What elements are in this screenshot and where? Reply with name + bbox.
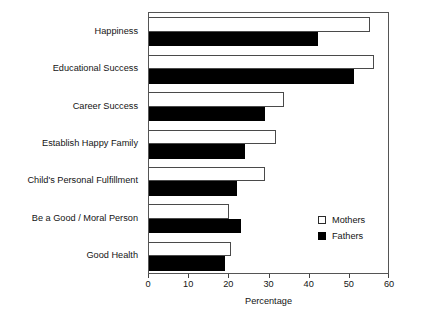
bar-mothers-5 xyxy=(149,167,265,182)
category-label-1: Happiness xyxy=(95,26,138,36)
legend-item-mothers: Mothers xyxy=(318,214,388,225)
bar-mothers-2 xyxy=(149,55,374,70)
bar-fathers-2 xyxy=(149,69,354,84)
filled-square-icon xyxy=(318,232,326,240)
x-axis-title: Percentage xyxy=(148,296,389,307)
x-tick-label-2: 10 xyxy=(183,279,193,289)
x-tick-mark-1 xyxy=(148,274,149,278)
bar-mothers-7 xyxy=(149,242,231,257)
x-tick-label-6: 50 xyxy=(344,279,354,289)
category-label-6: Be a Good / Moral Person xyxy=(32,213,138,223)
bar-fathers-3 xyxy=(149,107,265,122)
x-tick-label-1: 0 xyxy=(145,279,150,289)
open-square-icon xyxy=(318,216,326,224)
bar-mothers-6 xyxy=(149,204,229,219)
category-label-5: Child's Personal Fulfillment xyxy=(27,175,138,185)
category-label-4: Establish Happy Family xyxy=(42,138,138,148)
bar-mothers-3 xyxy=(149,92,284,107)
legend-label-mothers: Mothers xyxy=(332,215,365,225)
x-tick-label-7: 60 xyxy=(384,279,394,289)
bar-mothers-4 xyxy=(149,130,276,145)
chart-legend: MothersFathers xyxy=(318,214,388,246)
bar-fathers-1 xyxy=(149,32,318,47)
bar-mothers-1 xyxy=(149,17,370,32)
bar-fathers-7 xyxy=(149,256,225,271)
category-label-2: Educational Success xyxy=(53,63,138,73)
legend-label-fathers: Fathers xyxy=(332,231,363,241)
x-tick-mark-4 xyxy=(269,274,270,278)
bar-fathers-6 xyxy=(149,219,241,234)
x-tick-mark-2 xyxy=(188,274,189,278)
x-tick-mark-3 xyxy=(228,274,229,278)
x-tick-mark-6 xyxy=(349,274,350,278)
bar-chart: HappinessEducational SuccessCareer Succe… xyxy=(0,0,427,323)
bar-fathers-5 xyxy=(149,181,237,196)
category-label-3: Career Success xyxy=(73,101,138,111)
x-tick-label-4: 30 xyxy=(263,279,273,289)
category-label-7: Good Health xyxy=(86,250,138,260)
x-tick-mark-5 xyxy=(309,274,310,278)
legend-item-fathers: Fathers xyxy=(318,230,388,241)
x-tick-label-5: 40 xyxy=(304,279,314,289)
x-tick-mark-7 xyxy=(388,274,389,278)
bar-fathers-4 xyxy=(149,144,245,159)
category-axis: HappinessEducational SuccessCareer Succe… xyxy=(0,12,143,274)
x-tick-label-3: 20 xyxy=(223,279,233,289)
